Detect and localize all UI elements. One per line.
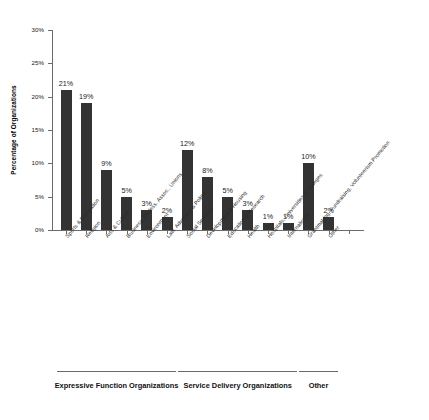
- y-axis-tick-label: 0%: [35, 225, 44, 235]
- y-axis-tick-label: 20%: [32, 92, 44, 102]
- y-axis-tick: 10%: [48, 163, 52, 164]
- bar-value-label: 19%: [79, 92, 93, 101]
- y-axis-tick: 30%: [48, 30, 52, 31]
- y-axis-tick-label: 15%: [32, 125, 44, 135]
- y-axis-tick: 25%: [48, 63, 52, 64]
- y-axis-tick-label: 10%: [32, 158, 44, 168]
- bar-chart-figure: Percentage of Organizations 0%5%10%15%20…: [0, 0, 429, 420]
- bar: 9%: [101, 170, 112, 230]
- x-axis-tick: [349, 230, 350, 234]
- y-axis-tick: 20%: [48, 97, 52, 98]
- y-axis-tick: 15%: [48, 130, 52, 131]
- y-axis-title: Percentage of Organizations: [8, 30, 19, 230]
- y-axis-tick: 0%: [48, 230, 52, 231]
- y-axis-tick-label: 5%: [35, 192, 44, 202]
- y-axis-tick: 5%: [48, 197, 52, 198]
- bar-value-label: 8%: [202, 166, 212, 175]
- bar-value-label: 10%: [301, 152, 315, 161]
- y-axis-line: [52, 30, 53, 230]
- bar-value-label: 5%: [222, 186, 232, 195]
- bar-value-label: 21%: [59, 79, 73, 88]
- group-rule: [178, 371, 297, 372]
- bar: 21%: [61, 90, 72, 230]
- bar-value-label: 1%: [263, 212, 273, 221]
- group-rule: [299, 371, 337, 372]
- y-axis-tick-label: 25%: [32, 58, 44, 68]
- bar-value-label: 12%: [180, 139, 194, 148]
- group-label: Other: [209, 381, 429, 391]
- bar-value-label: 5%: [121, 186, 131, 195]
- y-axis-tick-label: 30%: [32, 25, 44, 35]
- bar-value-label: 9%: [101, 159, 111, 168]
- group-rule: [57, 371, 176, 372]
